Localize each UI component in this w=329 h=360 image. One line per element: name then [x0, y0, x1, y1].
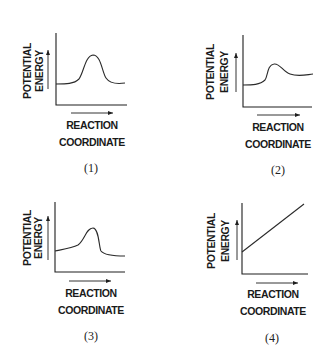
energy-curve [56, 55, 125, 84]
y-axis-label-line2: ENERGY [218, 51, 230, 93]
axes [243, 35, 312, 107]
x-axis-label-line2: COORDINATE [59, 136, 125, 148]
panel-caption: (2) [271, 163, 285, 177]
x-axis-label-line1: REACTION [247, 288, 299, 300]
x-axis-label-line2: COORDINATE [240, 305, 306, 317]
y-axis-label-line1: POTENTIAL [21, 42, 33, 99]
panel-4: POTENTIAL ENERGY REACTION COORDINATE (4) [205, 203, 308, 345]
x-axis-label-line1: REACTION [66, 119, 118, 131]
x-axis-label-line2: COORDINATE [58, 304, 124, 316]
panel-2: POTENTIAL ENERGY REACTION COORDINATE (2) [204, 35, 313, 177]
x-axis-label-line1: REACTION [252, 121, 304, 133]
panel-3: POTENTIAL ENERGY REACTION COORDINATE (3) [21, 202, 125, 343]
y-axis-label-line2: ENERGY [32, 217, 44, 259]
axes [242, 203, 308, 274]
y-axis-label-line2: ENERGY [33, 50, 45, 92]
panel-1: POTENTIAL ENERGY REACTION COORDINATE (1) [21, 33, 127, 175]
x-axis-label-line1: REACTION [65, 287, 117, 299]
panel-caption: (4) [265, 331, 279, 345]
y-axis-label-line1: POTENTIAL [204, 43, 216, 100]
energy-line [242, 204, 304, 252]
axes [56, 33, 127, 105]
y-axis-label-line1: POTENTIAL [205, 212, 217, 269]
axes [55, 202, 125, 272]
energy-curve [55, 228, 125, 256]
potential-energy-diagrams: POTENTIAL ENERGY REACTION COORDINATE (1)… [0, 0, 329, 360]
panel-caption: (1) [84, 161, 98, 175]
energy-curve [243, 64, 313, 85]
x-axis-label-line2: COORDINATE [245, 138, 311, 150]
panel-caption: (3) [84, 329, 98, 343]
y-axis-label-line2: ENERGY [219, 220, 231, 262]
